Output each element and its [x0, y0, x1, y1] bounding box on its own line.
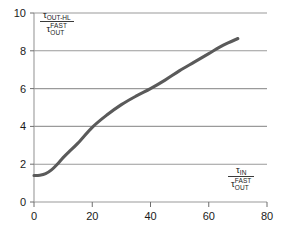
x-axis-label-denominator: τFASTOUT: [228, 177, 254, 191]
y-tick-label: 6: [20, 83, 26, 95]
y-tick-label: 2: [20, 158, 26, 170]
x-axis-label-numerator: τIN: [228, 165, 254, 177]
x-tick-label: 40: [144, 210, 156, 222]
y-axis-label-denominator: τFASTOUT: [40, 22, 74, 36]
x-axis-label: τIN τFASTOUT: [228, 165, 254, 191]
x-num-subscript: IN: [240, 169, 247, 176]
x-tick-label: 0: [31, 210, 37, 222]
y-tick-label: 4: [20, 120, 26, 132]
x-den-subscript: OUT: [235, 185, 252, 192]
x-tick-label: 60: [203, 210, 215, 222]
y-tick-marks: [30, 13, 34, 202]
y-tick-label: 8: [20, 45, 26, 57]
data-curve: [34, 39, 238, 176]
y-axis-label: τOUT-HL τFASTOUT: [40, 10, 74, 36]
chart-container: 10 8 6 4 2 0 0 20 40 60 80 τOUT-HL τFAST…: [0, 0, 281, 239]
y-axis-label-numerator: τOUT-HL: [40, 10, 74, 22]
y-num-subscript: OUT-HL: [47, 14, 71, 21]
y-tick-labels: 10 8 6 4 2 0: [14, 7, 26, 208]
y-tick-label: 0: [20, 196, 26, 208]
x-den-script-stack: FASTOUT: [235, 178, 252, 191]
y-den-subscript: OUT: [50, 30, 67, 37]
y-tick-label: 10: [14, 7, 26, 19]
x-tick-labels: 0 20 40 60 80: [31, 210, 273, 222]
x-tick-label: 80: [261, 210, 273, 222]
y-den-script-stack: FASTOUT: [50, 23, 67, 36]
x-tick-label: 20: [86, 210, 98, 222]
x-tick-marks: [34, 202, 267, 207]
